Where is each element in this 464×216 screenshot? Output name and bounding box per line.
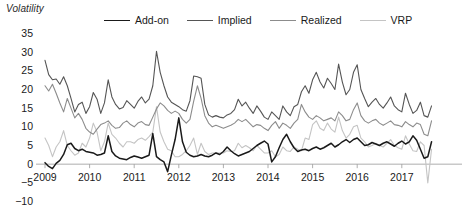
series-line-implied bbox=[45, 51, 432, 119]
plot-area bbox=[0, 0, 464, 216]
volatility-chart: Volatility Add-on Implied Realized VRP 3… bbox=[0, 0, 464, 216]
series-canvas bbox=[0, 0, 464, 216]
series-line-realized bbox=[45, 84, 432, 136]
series-line-vrp bbox=[45, 107, 432, 183]
